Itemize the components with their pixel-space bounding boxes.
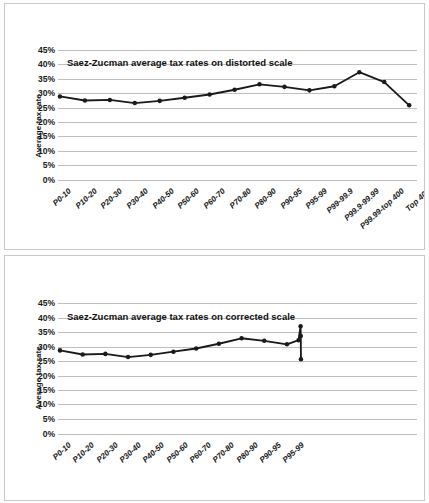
chart-panel-distorted: Average tax rate 0% 5% 10% 15% 20% 25% 3… [4, 3, 425, 250]
data-point-marker [182, 95, 186, 100]
y-tick-8: 40% [38, 59, 55, 69]
data-point-marker [239, 336, 243, 341]
y-tick-9: 45% [38, 45, 55, 55]
data-point-marker [149, 352, 153, 357]
data-point-marker [407, 103, 411, 108]
y-tick-1: 5% [43, 414, 55, 424]
y-tick-6: 30% [38, 88, 55, 98]
data-point-marker [382, 80, 386, 85]
data-point-marker [157, 99, 161, 104]
data-point-marker [108, 98, 112, 103]
x-axis-tick-labels-distorted: P0-10P10-20P20-30P30-40P40-50P50-60P60-7… [58, 184, 417, 244]
y-tick-6: 30% [38, 342, 55, 352]
y-tick-1: 5% [43, 160, 55, 170]
data-point-marker [103, 351, 107, 356]
data-point-marker [207, 92, 211, 97]
chart-title-corrected: Saez-Zucman average tax rates on correct… [67, 311, 295, 322]
data-point-marker [299, 333, 303, 338]
data-point-marker [133, 101, 137, 106]
y-tick-3: 15% [38, 131, 55, 141]
y-tick-0: 0% [43, 175, 55, 185]
data-point-marker [58, 94, 62, 99]
data-point-marker [332, 84, 336, 89]
figure-container: Average tax rate 0% 5% 10% 15% 20% 25% 3… [0, 0, 429, 503]
chart-title-distorted: Saez-Zucman average tax rates on distort… [67, 57, 292, 68]
y-tick-2: 10% [38, 146, 55, 156]
data-point-marker [282, 85, 286, 90]
y-tick-3: 15% [38, 385, 55, 395]
data-point-marker [194, 346, 198, 351]
y-tick-2: 10% [38, 399, 55, 409]
y-tick-9: 45% [38, 298, 55, 308]
y-tick-7: 35% [38, 327, 55, 337]
y-tick-0: 0% [43, 429, 55, 439]
data-point-marker [171, 349, 175, 354]
y-tick-7: 35% [38, 74, 55, 84]
data-point-marker [232, 87, 236, 92]
data-point-marker [298, 323, 302, 328]
data-point-marker [217, 341, 221, 346]
chart-panel-corrected: Average tax rate 0% 5% 10% 15% 20% 25% 3… [4, 255, 425, 502]
data-point-marker [307, 88, 311, 93]
y-tick-4: 20% [38, 117, 55, 127]
data-point-marker [257, 82, 261, 87]
data-point-marker [285, 342, 289, 347]
y-tick-5: 25% [38, 356, 55, 366]
data-point-marker [83, 98, 87, 103]
data-point-marker [296, 337, 300, 342]
data-point-marker [126, 354, 130, 359]
y-tick-4: 20% [38, 371, 55, 381]
data-point-marker [299, 357, 303, 362]
y-tick-5: 25% [38, 103, 55, 113]
data-point-marker [357, 70, 361, 75]
x-axis-tick-labels-corrected: P0-10P10-20P20-30P30-40P40-50P50-60P60-7… [58, 438, 417, 498]
y-tick-8: 40% [38, 313, 55, 323]
data-point-marker [80, 352, 84, 357]
data-point-marker [58, 348, 62, 353]
data-point-marker [262, 338, 266, 343]
